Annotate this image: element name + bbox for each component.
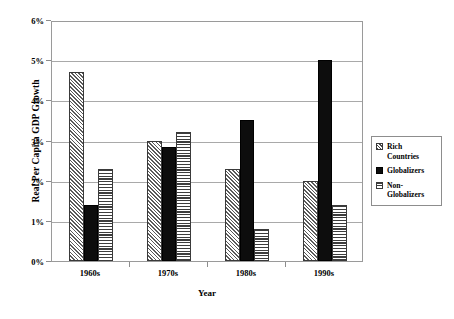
y-tick-label: 5% (0, 56, 44, 66)
bar-globalizers-1990s (318, 60, 333, 261)
x-tick-mark (207, 262, 208, 267)
y-tick-label: 1% (0, 217, 44, 227)
x-tick-mark (129, 262, 130, 267)
x-axis-title: Year (51, 288, 363, 298)
y-tick-label: 4% (0, 96, 44, 106)
bar-group-1980s (225, 22, 269, 261)
bar-rich-countries-1970s (147, 141, 162, 262)
bar-rich-countries-1960s (69, 72, 84, 261)
bar-globalizers-1960s (84, 205, 99, 261)
bar-rich-countries-1990s (303, 181, 318, 261)
legend-swatch-globalizers-icon (376, 167, 383, 174)
y-tick-label: 6% (0, 16, 44, 26)
chart-figure: Real Per Capita GDP Growth 0%1%2%3%4%5%6… (0, 0, 454, 319)
bar-group-1970s (147, 22, 191, 261)
x-tick-mark (285, 262, 286, 267)
chart-legend: RichCountries Globalizers Non-Globalizer… (371, 136, 442, 206)
x-tick-label-1990s: 1990s (289, 268, 359, 278)
bar-non-globalizers-1970s (176, 132, 191, 261)
bar-globalizers-1980s (240, 120, 255, 261)
bar-non-globalizers-1960s (98, 169, 113, 261)
legend-item-non-globalizers: Non-Globalizers (376, 181, 437, 200)
legend-label-rich-countries: RichCountries (387, 142, 419, 161)
bar-non-globalizers-1990s (332, 205, 347, 261)
y-tick-label: 0% (0, 257, 44, 267)
x-tick-label-1960s: 1960s (55, 268, 125, 278)
legend-item-rich-countries: RichCountries (376, 142, 437, 161)
legend-swatch-rich-countries-icon (376, 143, 383, 150)
y-tick-label: 2% (0, 177, 44, 187)
bar-non-globalizers-1980s (254, 229, 269, 261)
bar-group-1960s (69, 22, 113, 261)
legend-label-non-globalizers: Non-Globalizers (387, 181, 424, 200)
x-tick-label-1980s: 1980s (211, 268, 281, 278)
plot-area (51, 21, 363, 262)
legend-swatch-non-globalizers-icon (376, 182, 383, 189)
y-tick-label: 3% (0, 137, 44, 147)
figure-caption (28, 307, 428, 319)
bar-globalizers-1970s (162, 147, 177, 261)
legend-item-globalizers: Globalizers (376, 166, 437, 176)
bar-rich-countries-1980s (225, 169, 240, 261)
x-tick-label-1970s: 1970s (133, 268, 203, 278)
legend-label-globalizers: Globalizers (387, 166, 424, 176)
bar-group-1990s (303, 22, 347, 261)
